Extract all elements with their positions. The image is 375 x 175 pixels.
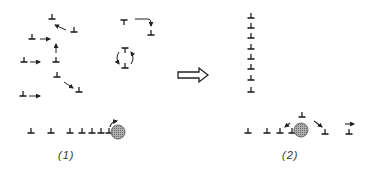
precipitate-particle [111, 125, 125, 139]
panel-1-label: (1) [58, 149, 74, 161]
migration-arrows [29, 25, 73, 96]
panel-2 [245, 13, 355, 137]
dislocation-pileup-row [28, 128, 113, 133]
dislocation-diagram [0, 0, 375, 175]
low-angle-boundary-wall [248, 13, 255, 92]
panel-2-label: (2) [282, 149, 298, 161]
dislocation-dipoles [117, 19, 155, 68]
panel-1 [20, 14, 155, 139]
scattered-dislocations [20, 14, 83, 96]
transition-arrow-icon [178, 68, 208, 82]
precipitate-particle-2 [294, 123, 308, 137]
